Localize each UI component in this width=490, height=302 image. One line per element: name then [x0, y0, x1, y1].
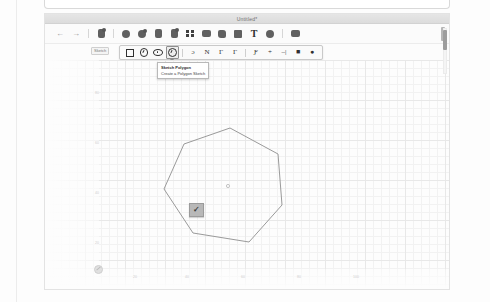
extend-icon: –|	[282, 49, 287, 56]
extrude-icon	[122, 30, 130, 38]
sketch-fillet-icon: Ƒ	[254, 49, 258, 56]
main-toolbar: ← →	[45, 24, 449, 44]
sketch-arc-tool[interactable]: ɔ	[187, 46, 200, 59]
screen-root: Untitled* ← →	[0, 0, 490, 302]
sweep-button[interactable]	[152, 27, 165, 41]
pattern-button[interactable]	[184, 27, 197, 41]
arrow-left-icon: ←	[56, 30, 64, 38]
page-left-rail	[16, 0, 17, 302]
assembly-button[interactable]	[289, 27, 302, 41]
heptagon-shape	[164, 128, 282, 242]
shell-button[interactable]	[232, 27, 245, 41]
point-curve-icon: Γ	[233, 49, 237, 56]
sketch-spline-tool[interactable]: N	[201, 46, 214, 59]
toolbar-divider	[113, 29, 114, 38]
sketch-curve-tool[interactable]: Γ	[215, 46, 228, 59]
sketch-canvas[interactable]: 80 60 40 20 20 40 60 80 100 ✓	[45, 60, 449, 289]
sketch-circle-tool[interactable]	[138, 46, 151, 59]
undo-button[interactable]: ←	[54, 27, 67, 41]
document-title: Untitled*	[237, 15, 258, 21]
grid-pattern-icon	[186, 30, 194, 38]
ribbon-group-label: Sketch	[91, 47, 109, 55]
sketch-use-tool[interactable]: ●	[306, 46, 319, 59]
sketch-toolbar: ɔ N Γ Γ Ƒ + –|	[119, 45, 323, 60]
curve-icon: Γ	[219, 49, 223, 56]
sketch-geometry	[45, 60, 449, 289]
sketch-mirror-tool[interactable]: ■	[292, 46, 305, 59]
rectangle-icon	[126, 49, 134, 57]
use-icon: ●	[310, 49, 314, 56]
sketch-button[interactable]	[95, 27, 108, 41]
arc-icon: ɔ	[191, 49, 194, 56]
confirm-sketch-badge[interactable]: ✓	[189, 203, 204, 217]
cad-application-window: Untitled* ← →	[44, 13, 450, 290]
assembly-icon	[291, 30, 300, 37]
redo-button[interactable]: →	[70, 27, 83, 41]
revolve-icon	[138, 30, 146, 38]
arrow-right-icon: →	[72, 30, 80, 38]
sketch-trim-tool[interactable]: +	[264, 46, 277, 59]
sketch-icon	[98, 29, 105, 38]
polygon-tool-tooltip: Sketch Polygon Create a Polygon Sketch	[157, 62, 209, 79]
loft-icon	[171, 29, 178, 38]
sketch-ellipse-tool[interactable]	[152, 46, 165, 59]
chamfer-button[interactable]	[216, 27, 229, 41]
ribbon-divider	[245, 49, 246, 57]
fillet-icon	[202, 30, 211, 37]
fillet-button[interactable]	[200, 27, 213, 41]
sketch-fillet-tool[interactable]: Ƒ	[250, 46, 263, 59]
shell-icon	[234, 30, 242, 38]
sketch-ribbon-area: Sketch ɔ	[45, 44, 449, 61]
tooltip-description: Create a Polygon Sketch	[161, 71, 205, 77]
mirror-icon: ■	[296, 49, 300, 56]
checkmark-icon: ✓	[193, 206, 200, 214]
trim-icon: +	[268, 49, 272, 56]
loft-button[interactable]	[168, 27, 181, 41]
transform-icon	[266, 30, 274, 38]
toolbar-divider	[88, 29, 89, 38]
chamfer-icon	[218, 30, 226, 38]
polygon-center-point	[226, 184, 229, 187]
text-t-icon: T	[251, 29, 258, 39]
ribbon-divider	[182, 49, 183, 57]
outer-page-panel	[44, 0, 450, 9]
text-button[interactable]: T	[248, 27, 261, 41]
extrude-button[interactable]	[120, 27, 133, 41]
sweep-icon	[155, 29, 162, 38]
toolbar-divider	[282, 29, 283, 38]
title-bar: Untitled*	[45, 14, 449, 24]
spline-icon: N	[204, 49, 209, 56]
sketch-extend-tool[interactable]: –|	[278, 46, 291, 59]
polygon-icon	[168, 48, 177, 57]
sketch-rectangle-tool[interactable]	[124, 46, 137, 59]
ellipse-icon	[153, 49, 163, 56]
revolve-button[interactable]	[136, 27, 149, 41]
transform-button[interactable]	[264, 27, 277, 41]
circle-icon	[140, 48, 149, 57]
vertical-scrollbar-thumb[interactable]	[443, 30, 447, 50]
sketch-point-curve-tool[interactable]: Γ	[229, 46, 242, 59]
sketch-polygon-tool[interactable]	[166, 46, 179, 59]
